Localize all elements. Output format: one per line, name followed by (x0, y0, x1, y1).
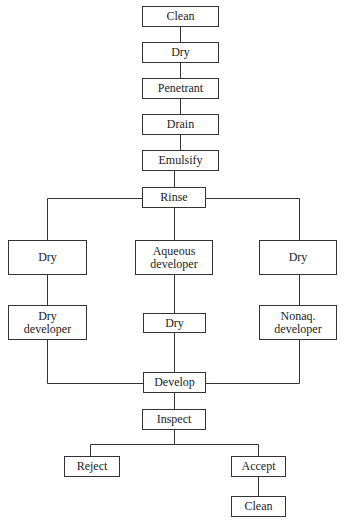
step-drain-label: Drain (167, 118, 194, 131)
step-clean-final-label: Clean (245, 500, 273, 513)
step-rinse-label: Rinse (160, 191, 187, 204)
step-dry-center: Dry (143, 313, 206, 333)
step-inspect: Inspect (142, 409, 206, 430)
step-dry-label: Dry (171, 46, 190, 59)
step-accept-label: Accept (242, 460, 276, 473)
step-develop-label: Develop (154, 376, 195, 389)
step-clean-final: Clean (231, 496, 286, 517)
step-dry: Dry (142, 42, 219, 63)
step-accept: Accept (231, 456, 286, 477)
step-aqueous-developer-label-line2: developer (150, 258, 197, 271)
step-dry-right-label: Dry (289, 251, 308, 264)
step-dry-developer-label-line1: Dry (38, 310, 57, 323)
step-reject: Reject (64, 456, 120, 477)
step-drain: Drain (142, 114, 219, 135)
step-dry-left: Dry (8, 240, 87, 275)
step-emulsify: Emulsify (142, 150, 219, 171)
step-dry-right: Dry (259, 240, 337, 275)
step-emulsify-label: Emulsify (159, 154, 203, 167)
step-clean: Clean (142, 6, 219, 27)
step-inspect-label: Inspect (157, 413, 192, 426)
step-nonaqueous-developer-label-line2: developer (274, 323, 321, 336)
step-dry-developer: Dry developer (8, 305, 87, 340)
step-dry-developer-label-line2: developer (24, 323, 71, 336)
step-aqueous-developer-label-line1: Aqueous (153, 245, 196, 258)
step-dry-center-label: Dry (165, 317, 184, 330)
step-penetrant: Penetrant (142, 78, 219, 99)
step-aqueous-developer: Aqueous developer (135, 240, 213, 275)
step-rinse: Rinse (142, 187, 206, 208)
step-reject-label: Reject (77, 460, 108, 473)
step-clean-label: Clean (167, 10, 195, 23)
step-nonaqueous-developer: Nonaq. developer (259, 305, 337, 340)
step-penetrant-label: Penetrant (158, 82, 203, 95)
step-dry-left-label: Dry (38, 251, 57, 264)
step-develop: Develop (143, 372, 206, 393)
step-nonaqueous-developer-label-line1: Nonaq. (281, 310, 316, 323)
